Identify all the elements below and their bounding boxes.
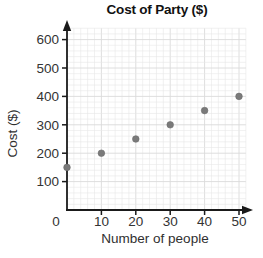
data-point bbox=[201, 107, 208, 114]
x-axis-label: Number of people bbox=[55, 231, 255, 246]
y-axis-label: Cost ($) bbox=[5, 84, 20, 184]
scatter-chart: Cost of Party ($) Cost ($) 1002003004005… bbox=[0, 0, 263, 258]
data-point bbox=[133, 136, 140, 143]
x-axis-arrow-icon bbox=[242, 206, 253, 214]
data-point bbox=[236, 93, 243, 100]
y-axis-arrow-icon bbox=[63, 20, 71, 31]
x-tick-label: 30 bbox=[163, 214, 178, 229]
data-point bbox=[64, 164, 71, 171]
y-tick-label: 100 bbox=[36, 174, 59, 189]
x-tick-label: 40 bbox=[197, 214, 212, 229]
y-tick-label: 300 bbox=[36, 118, 59, 133]
x-tick-label: 10 bbox=[94, 214, 109, 229]
plot-area: 10020030040050060001020304050 bbox=[0, 0, 263, 258]
x-tick-label: 0 bbox=[52, 214, 60, 229]
y-tick-label: 200 bbox=[36, 146, 59, 161]
chart-title: Cost of Party ($) bbox=[52, 2, 262, 17]
y-tick-label: 500 bbox=[36, 61, 59, 76]
x-tick-label: 50 bbox=[231, 214, 246, 229]
data-point bbox=[98, 150, 105, 157]
x-tick-label: 20 bbox=[128, 214, 143, 229]
y-tick-label: 400 bbox=[36, 89, 59, 104]
y-tick-label: 600 bbox=[36, 32, 59, 47]
data-point bbox=[167, 122, 174, 129]
